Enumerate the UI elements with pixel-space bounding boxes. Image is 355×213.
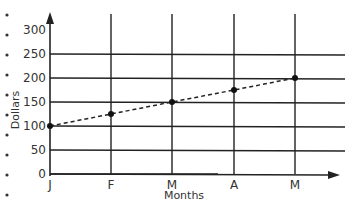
y-tick-label: 150 bbox=[23, 95, 46, 109]
y-tick-label: 200 bbox=[23, 71, 46, 85]
y-tick-labels: 050100150200250300 bbox=[23, 23, 46, 181]
data-point bbox=[47, 123, 53, 129]
bullet-icon bbox=[5, 173, 8, 176]
x-tick-label: F bbox=[108, 178, 115, 192]
data-point bbox=[231, 87, 237, 93]
bullet-icon bbox=[5, 153, 8, 156]
bullet-icon bbox=[5, 73, 8, 76]
y-tick-label: 300 bbox=[23, 23, 46, 37]
x-axis-label: Months bbox=[164, 189, 204, 202]
bullet-icon bbox=[5, 13, 8, 16]
x-tick-label: M bbox=[290, 178, 300, 192]
y-axis-label: Dollars bbox=[9, 91, 22, 130]
x-tick-label: A bbox=[230, 178, 239, 192]
h-gridline bbox=[50, 54, 345, 55]
data-point bbox=[292, 75, 298, 81]
axes bbox=[46, 12, 340, 179]
h-gridline bbox=[50, 102, 345, 103]
data-point bbox=[108, 111, 114, 117]
bullet-icon bbox=[5, 133, 8, 136]
bullet-icon bbox=[5, 53, 8, 56]
y-tick-label: 250 bbox=[23, 47, 46, 61]
data-point bbox=[169, 99, 175, 105]
y-tick-label: 0 bbox=[38, 167, 46, 181]
y-tick-label: 50 bbox=[31, 143, 46, 157]
bullet-icon bbox=[5, 33, 8, 36]
y-tick-label: 100 bbox=[23, 119, 46, 133]
bullet-icon bbox=[5, 193, 8, 196]
h-gridline bbox=[50, 150, 345, 151]
h-gridline bbox=[50, 126, 345, 127]
gridlines bbox=[50, 14, 345, 174]
h-gridline bbox=[50, 78, 345, 79]
x-axis-arrow-icon bbox=[328, 171, 340, 179]
line-chart: 050100150200250300 JFMAM Dollars Months bbox=[0, 0, 355, 213]
x-tick-label: J bbox=[47, 178, 52, 192]
y-axis-arrow-icon bbox=[46, 12, 54, 24]
